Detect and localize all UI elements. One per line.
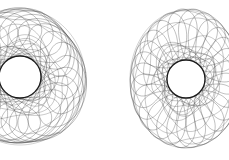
torus-center-hole (167, 60, 205, 98)
torus-center-hole (0, 56, 41, 98)
right-torus-wireframe (130, 9, 229, 148)
left-torus-wireframe (0, 8, 87, 145)
wireframe-line (186, 97, 215, 145)
wireframe-line (196, 19, 226, 63)
wireframe-figure-canvas (0, 0, 229, 160)
wireframe-line (131, 74, 168, 108)
wireframe-line (39, 56, 87, 128)
